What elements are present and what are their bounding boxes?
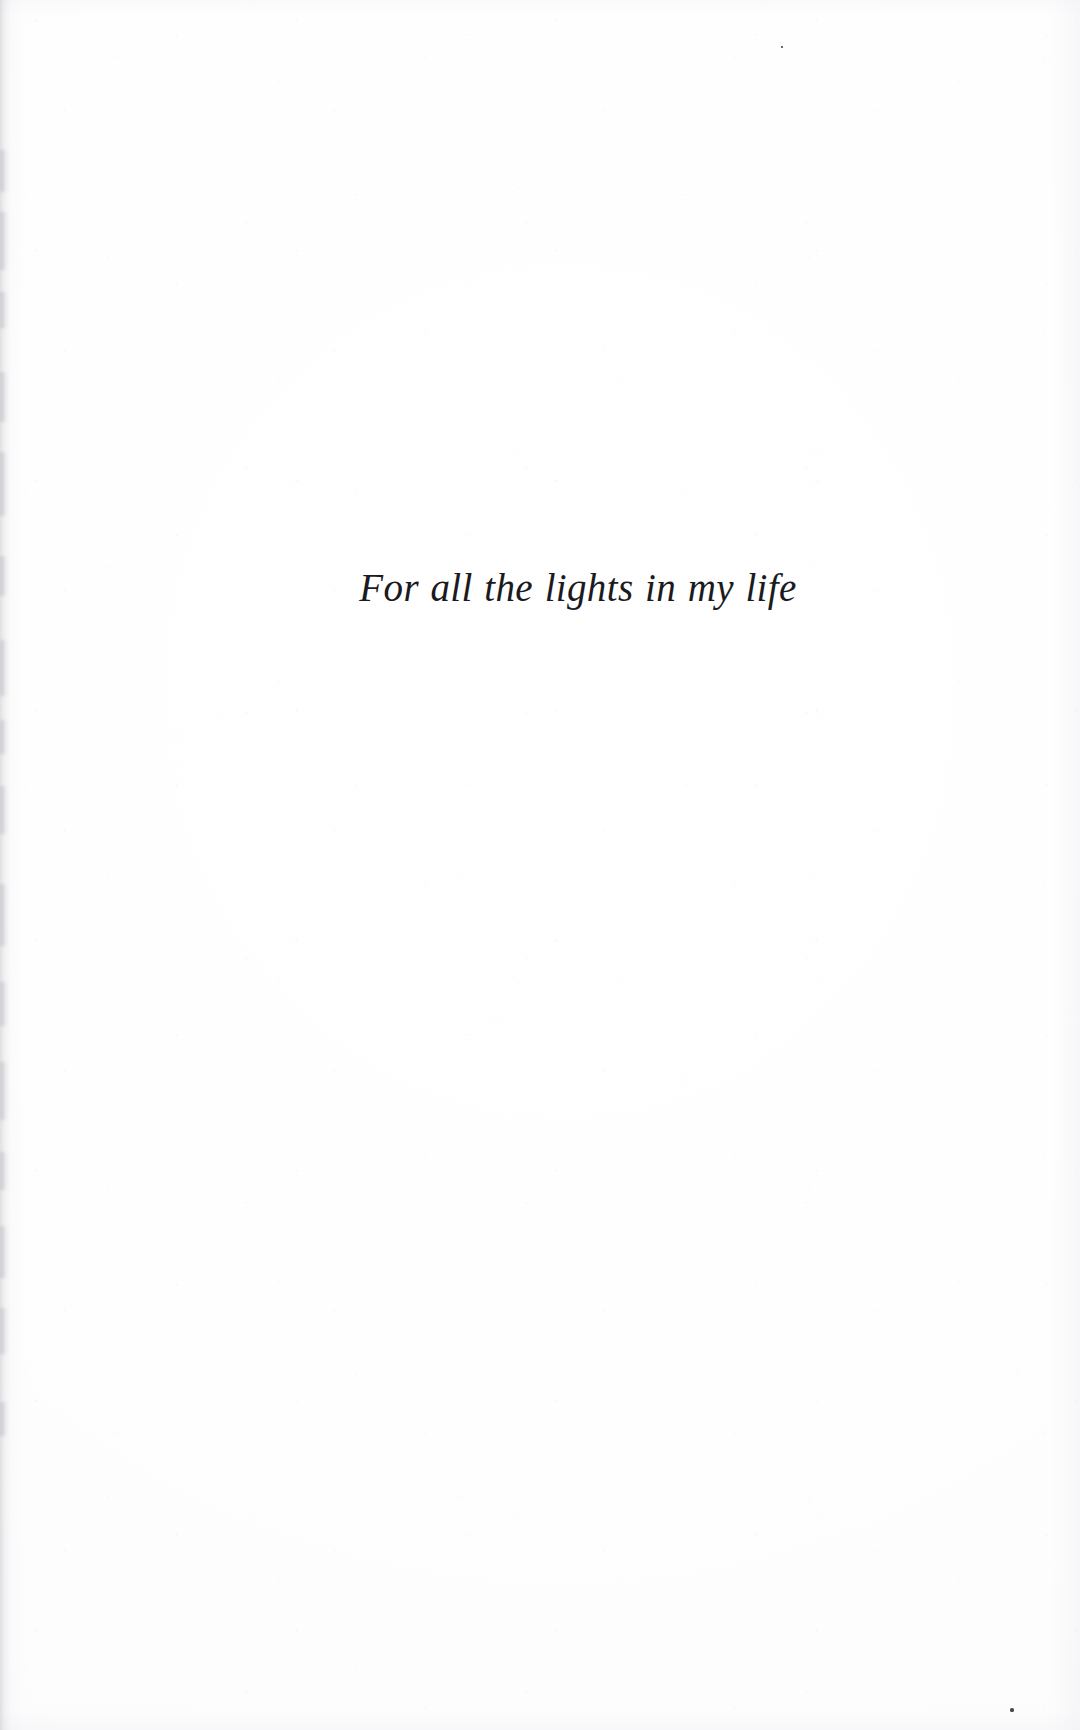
paper-tint — [0, 0, 1080, 1730]
dedication-page: For all the lights in my life — [0, 0, 1080, 1730]
gutter-streak — [0, 452, 9, 516]
gutter-streak — [0, 372, 9, 422]
dedication-block: For all the lights in my life — [0, 566, 1080, 610]
gutter-streak — [0, 640, 9, 696]
gutter-streak — [0, 720, 9, 754]
page-right-edge-shade — [1050, 0, 1080, 1730]
gutter-streak — [0, 1062, 9, 1120]
scan-speck — [781, 46, 783, 48]
gutter-streak — [0, 292, 9, 328]
dedication-text: For all the lights in my life — [359, 566, 796, 610]
gutter-streak — [0, 1308, 9, 1354]
gutter-streak — [0, 884, 9, 946]
gutter-streak — [0, 1402, 9, 1436]
page-bottom-edge-shade — [0, 1708, 1080, 1730]
gutter-streak — [0, 212, 9, 270]
gutter-streak — [0, 1152, 9, 1190]
gutter-streak — [0, 982, 9, 1026]
gutter-streak — [0, 1226, 9, 1278]
paper-texture — [0, 0, 1080, 1730]
book-gutter-shadow — [0, 0, 26, 1730]
page-top-edge-shade — [0, 0, 1080, 16]
gutter-streak — [0, 150, 9, 192]
gutter-streak — [0, 786, 9, 834]
scan-speck — [1010, 1708, 1014, 1712]
